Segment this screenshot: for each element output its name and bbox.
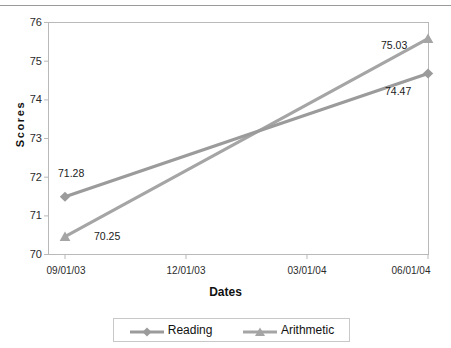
y-tick-label-73: 73	[20, 133, 42, 144]
y-tick-label-70: 70	[20, 249, 42, 260]
y-tick-label-72: 72	[20, 172, 42, 183]
y-tick-label-71: 71	[20, 210, 42, 221]
data-label-reading-end: 74.47	[385, 86, 411, 97]
x-axis-title: Dates	[0, 285, 451, 299]
data-label-reading-start: 71.28	[58, 168, 84, 179]
legend-label-arithmetic: Arithmetic	[281, 323, 334, 337]
y-axis-ticks	[44, 23, 49, 255]
x-tick-label-1: 09/01/03	[26, 265, 106, 276]
series-line-arithmetic	[65, 39, 428, 237]
marker-reading-end	[423, 69, 433, 79]
legend-entry-reading[interactable]: Reading	[129, 323, 213, 337]
y-tick-label-76: 76	[20, 17, 42, 28]
x-tick-label-2: 12/01/03	[146, 265, 226, 276]
x-tick-label-3: 03/01/04	[267, 265, 347, 276]
series-line-reading	[65, 74, 428, 197]
diamond-marker-icon	[129, 324, 165, 336]
chart-legend: Reading Arithmetic	[113, 318, 350, 342]
legend-label-reading: Reading	[168, 323, 213, 337]
y-tick-label-74: 74	[20, 94, 42, 105]
marker-reading-start	[60, 192, 70, 202]
triangle-marker-icon	[242, 324, 278, 336]
x-axis-ticks	[65, 255, 428, 260]
data-label-arithmetic-start: 70.25	[94, 231, 120, 242]
marker-arithmetic-end	[423, 34, 434, 43]
x-tick-label-4: 06/01/04	[371, 265, 451, 276]
data-label-arithmetic-end: 75.03	[381, 40, 407, 51]
y-tick-label-75: 75	[20, 56, 42, 67]
legend-entry-arithmetic[interactable]: Arithmetic	[242, 323, 334, 337]
